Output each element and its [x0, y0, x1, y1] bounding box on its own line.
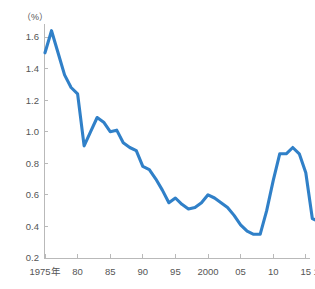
y-tick-label: 1.2 — [26, 95, 39, 106]
x-tick-label: 85 — [105, 266, 116, 277]
x-tick-label: 95 — [170, 266, 181, 277]
chart-svg: （%） 0.20.40.60.81.01.21.41.6 1975年808590… — [0, 0, 315, 289]
unit-label-group: （%） — [22, 12, 48, 22]
y-axis-unit-label: （%） — [22, 12, 48, 22]
y-tick-label: 1.0 — [26, 126, 39, 137]
axis-tick-marks — [44, 37, 315, 258]
y-tick-label: 1.6 — [26, 31, 39, 42]
y-tick-label: 0.2 — [26, 252, 39, 263]
y-tick-label: 0.6 — [26, 189, 39, 200]
x-tick-label: 15 — [301, 266, 312, 277]
x-tick-label: 05 — [235, 266, 246, 277]
x-tick-label: 17 — [314, 266, 315, 277]
x-tick-label: 80 — [72, 266, 83, 277]
y-axis-tick-labels: 0.20.40.60.81.01.21.41.6 — [26, 31, 39, 263]
x-tick-label: 1975年 — [29, 266, 60, 277]
x-tick-label: 90 — [138, 266, 149, 277]
y-tick-label: 0.8 — [26, 158, 39, 169]
x-tick-label: 10 — [268, 266, 279, 277]
data-series-line — [45, 31, 315, 235]
line-chart-container: （%） 0.20.40.60.81.01.21.41.6 1975年808590… — [0, 0, 315, 289]
x-tick-label: 2000 — [197, 266, 218, 277]
x-axis-tick-labels: 1975年80859095200005101517 — [29, 266, 315, 277]
y-tick-label: 0.4 — [26, 221, 39, 232]
y-tick-label: 1.4 — [26, 63, 39, 74]
